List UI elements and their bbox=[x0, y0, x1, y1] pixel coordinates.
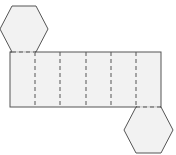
hexagonal-prism-net bbox=[0, 0, 176, 155]
bottom-hexagon-face bbox=[124, 107, 173, 153]
top-hexagon-face bbox=[0, 6, 48, 52]
